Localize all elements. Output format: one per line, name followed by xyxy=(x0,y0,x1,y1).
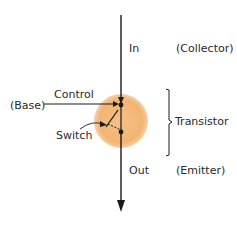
label-in: In xyxy=(129,43,139,54)
label-out: Out xyxy=(129,165,149,176)
label-control: Control xyxy=(54,89,94,100)
label-switch: Switch xyxy=(56,130,92,141)
label-transistor: Transistor xyxy=(175,116,228,127)
label-base: (Base) xyxy=(10,100,45,111)
label-collector: (Collector) xyxy=(176,43,234,54)
transistor-bracket xyxy=(166,89,172,156)
base-node xyxy=(119,103,124,108)
label-emitter: (Emitter) xyxy=(176,165,225,176)
arrow-out-icon xyxy=(117,200,125,212)
emitter-node xyxy=(119,130,124,135)
